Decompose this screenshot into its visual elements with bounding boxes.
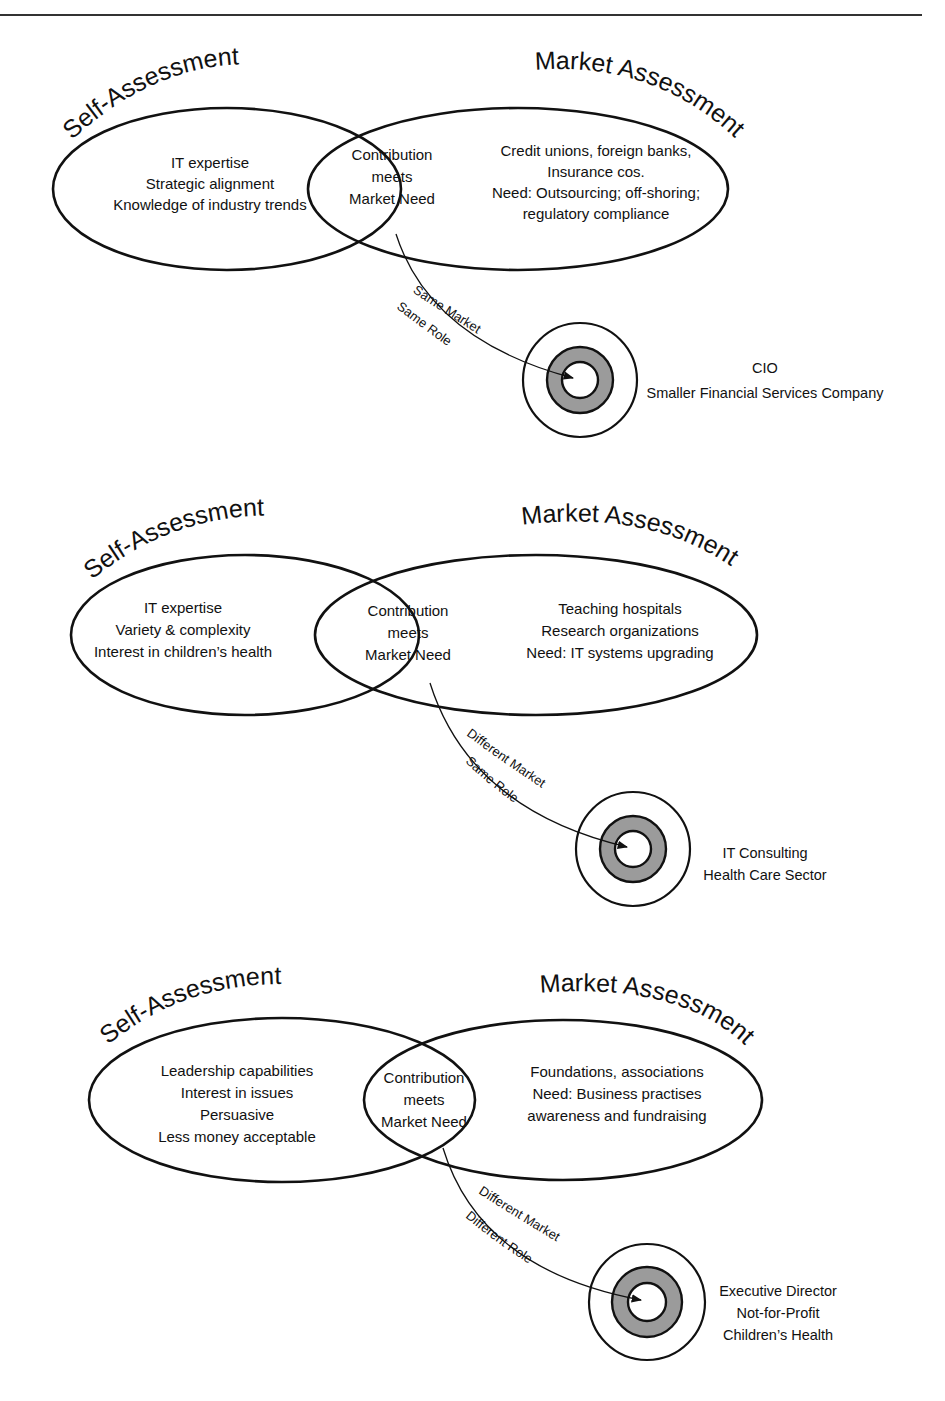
destination-role: IT Consulting — [722, 845, 807, 861]
overlap-text: Contribution — [368, 602, 449, 619]
self-item: Knowledge of industry trends — [113, 196, 306, 213]
self-item: Interest in children’s health — [94, 643, 272, 660]
market-assessment-title: Market Assessment — [534, 46, 751, 142]
destination-org: Not-for-Profit — [737, 1305, 820, 1321]
self-assessment-title: Self-Assessment — [94, 961, 282, 1049]
market-assessment-title: Market Assessment — [539, 968, 761, 1049]
bullseye-target — [589, 1244, 705, 1360]
destination-sector: Children’s Health — [723, 1327, 833, 1343]
self-item: Interest in issues — [181, 1084, 294, 1101]
destination-org: Smaller Financial Services Company — [647, 385, 885, 401]
overlap-text: meets — [372, 168, 413, 185]
self-assessment-title: Self-Assessment — [57, 41, 240, 143]
overlap-text: meets — [404, 1091, 445, 1108]
overlap-text: Contribution — [384, 1069, 465, 1086]
overlap-text: meets — [388, 624, 429, 641]
bullseye-target — [576, 792, 690, 906]
venn-panel-2: Self-Assessment Market Assessment IT exp… — [0, 470, 945, 950]
bullseye-target — [523, 323, 637, 437]
destination-role: CIO — [752, 360, 778, 376]
market-item: regulatory compliance — [523, 205, 670, 222]
self-item: Leadership capabilities — [161, 1062, 314, 1079]
venn-panel-1: Self-Assessment Market Assessment IT exp… — [0, 0, 945, 470]
overlap-text: Market Need — [381, 1113, 467, 1130]
self-item: Variety & complexity — [116, 621, 251, 638]
market-item: Research organizations — [541, 622, 699, 639]
destination-role: Executive Director — [719, 1283, 837, 1299]
overlap-text: Market Need — [349, 190, 435, 207]
market-item: Need: Outsourcing; off-shoring; — [492, 184, 700, 201]
market-assessment-title: Market Assessment — [520, 498, 744, 570]
destination-org: Health Care Sector — [703, 867, 826, 883]
overlap-text: Market Need — [365, 646, 451, 663]
market-item: Insurance cos. — [547, 163, 645, 180]
self-item: Persuasive — [200, 1106, 274, 1123]
market-item: Need: IT systems upgrading — [526, 644, 713, 661]
self-item: Less money acceptable — [158, 1128, 316, 1145]
market-item: Credit unions, foreign banks, — [501, 142, 692, 159]
venn-panel-3: Self-Assessment Market Assessment Leader… — [0, 950, 945, 1401]
market-item: Foundations, associations — [530, 1063, 703, 1080]
self-item: IT expertise — [171, 154, 249, 171]
market-item: Teaching hospitals — [558, 600, 681, 617]
market-item: Need: Business practises — [532, 1085, 701, 1102]
self-item: IT expertise — [144, 599, 222, 616]
market-item: awareness and fundraising — [527, 1107, 706, 1124]
overlap-text: Contribution — [352, 146, 433, 163]
self-assessment-title: Self-Assessment — [78, 493, 265, 584]
self-item: Strategic alignment — [146, 175, 275, 192]
